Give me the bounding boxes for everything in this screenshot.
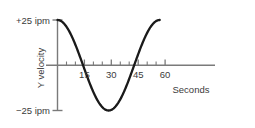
x-tick-label-60: 60 (160, 69, 171, 80)
y-axis-title: Y velocity (35, 48, 46, 89)
y-velocity-vs-seconds-chart: +25 ipm −25 ipm Y velocity 15 30 45 60 S… (0, 0, 255, 128)
y-axis-min-label: −25 ipm (16, 105, 50, 116)
y-axis-max-label: +25 ipm (16, 15, 50, 26)
x-tick-label-15: 15 (79, 69, 90, 80)
x-tick-label-30: 30 (106, 69, 117, 80)
chart-screenshot: +25 ipm −25 ipm Y velocity 15 30 45 60 S… (0, 0, 255, 128)
x-tick-label-45: 45 (133, 69, 144, 80)
x-axis-title: Seconds (173, 84, 210, 95)
